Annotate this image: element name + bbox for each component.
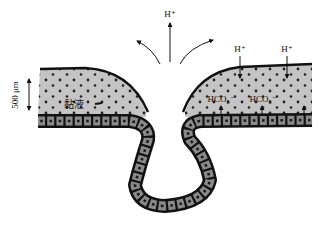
proton-top-label: H⁺ xyxy=(164,9,176,19)
scale-bar-label: 500 μm xyxy=(10,81,20,109)
epithelium xyxy=(38,120,312,206)
proton-label-1: H⁺ xyxy=(234,44,246,54)
mucus-label: 黏液 xyxy=(64,98,84,110)
mucus-layer-left xyxy=(38,68,148,117)
scale-bar: 500 μm xyxy=(10,79,29,110)
gastric-mucosa-diagram: 500 μm 黏液 H⁺ H⁺ H⁺ HCO₃⁻ HCO₃⁻ xyxy=(0,0,325,226)
proton-efflux-arrows: H⁺ xyxy=(137,9,213,64)
mucus-layer-right xyxy=(183,64,312,117)
proton-label-2: H⁺ xyxy=(281,44,293,54)
bicarbonate-label-2: HCO₃⁻ xyxy=(249,94,276,104)
bicarbonate-label-1: HCO₃⁻ xyxy=(207,94,234,104)
